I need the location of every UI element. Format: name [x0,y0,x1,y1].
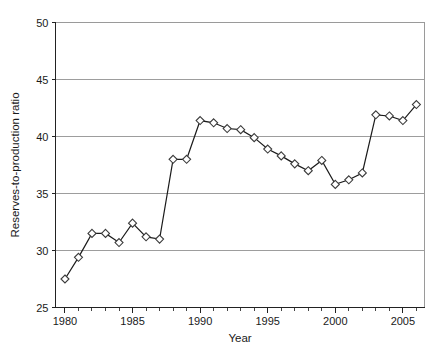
data-point-marker [237,126,245,134]
data-point-marker [385,112,393,120]
line-chart: 253035404550 198019851990199520002005 Ye… [0,0,440,351]
x-tick-label: 1980 [53,315,77,327]
data-point-marker [156,235,164,243]
data-point-marker [102,229,110,237]
x-tick-label: 2005 [391,315,415,327]
gridline-group [56,23,425,251]
data-point-marker [210,119,218,127]
data-point-marker [169,155,177,163]
y-tick-label: 35 [36,188,48,200]
plot-frame [56,23,425,308]
data-point-marker [196,117,204,125]
y-tick-label: 30 [36,245,48,257]
y-axis-title: Reserves-to-production ratio [9,92,21,237]
data-point-marker [115,239,123,247]
chart-page: 253035404550 198019851990199520002005 Ye… [0,0,440,351]
data-point-markers [61,101,420,283]
data-point-marker [291,160,299,168]
y-tick-label: 50 [36,17,48,29]
data-point-marker [372,111,380,119]
x-tick-label: 1990 [188,315,212,327]
x-tick-label: 1985 [120,315,144,327]
data-point-marker [331,180,339,188]
data-point-marker [223,125,231,133]
data-point-marker [74,253,82,261]
data-point-marker [277,152,285,160]
x-tick-label: 1995 [255,315,279,327]
data-point-marker [345,176,353,184]
y-axis-tick-labels: 253035404550 [36,17,48,314]
y-axis-ticks [52,23,56,308]
x-axis-tick-labels: 198019851990199520002005 [53,315,415,327]
data-point-marker [61,275,69,283]
x-axis-ticks [65,308,416,313]
x-axis-title: Year [228,332,251,344]
y-tick-label: 25 [36,302,48,314]
data-point-marker [183,155,191,163]
y-tick-label: 45 [36,74,48,86]
y-tick-label: 40 [36,131,48,143]
x-tick-label: 2000 [323,315,347,327]
data-point-marker [358,169,366,177]
data-point-marker [88,229,96,237]
